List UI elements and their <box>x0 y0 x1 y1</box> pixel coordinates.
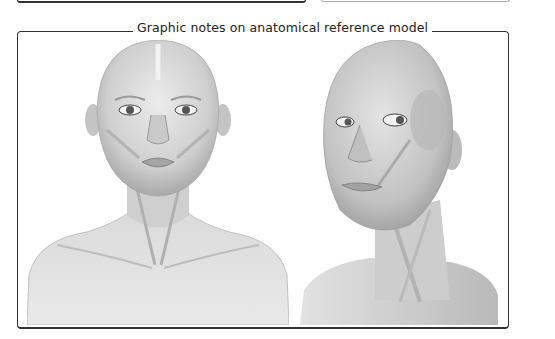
front-view-figure <box>27 40 289 325</box>
side-head-illustration <box>300 40 500 325</box>
top-right-box <box>321 0 510 2</box>
top-left-box <box>17 0 306 3</box>
panel-title: Graphic notes on anatomical reference mo… <box>133 20 432 35</box>
front-head-illustration <box>27 40 289 325</box>
three-quarter-view-figure <box>300 40 500 325</box>
